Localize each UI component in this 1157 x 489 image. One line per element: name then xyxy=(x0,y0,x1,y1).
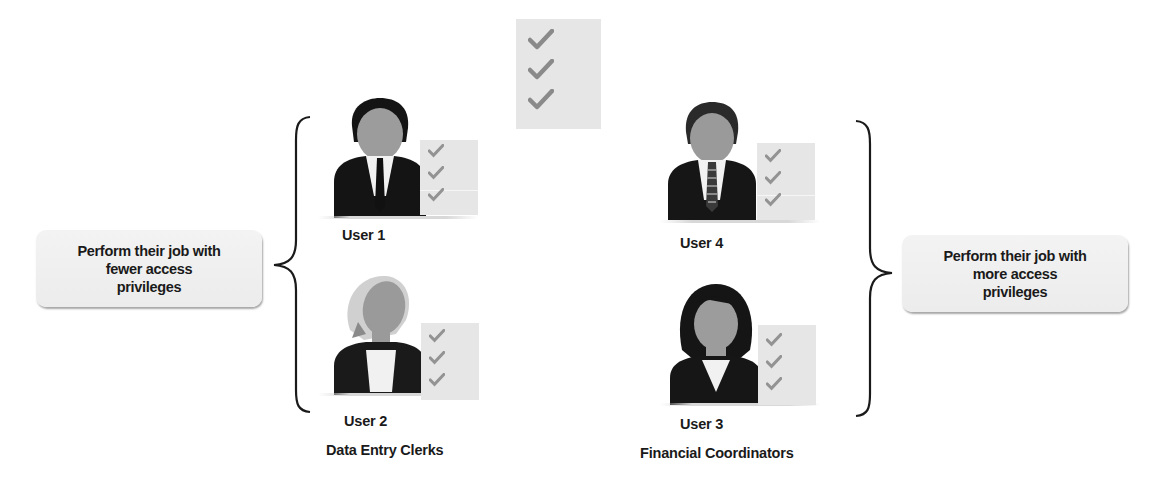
base-shadow xyxy=(318,216,478,219)
user-1-card xyxy=(318,92,483,222)
central-checklist-icon xyxy=(516,19,601,129)
fewer-privileges-callout: Perform their job with fewer access priv… xyxy=(36,230,262,307)
checkmark-icon xyxy=(528,59,554,81)
base-shadow xyxy=(660,220,820,223)
user-3-card xyxy=(660,278,825,408)
right-brace xyxy=(850,116,898,421)
checklist-icon xyxy=(757,143,815,220)
user-2-card xyxy=(318,268,483,398)
callout-line: Perform their job with xyxy=(943,247,1086,265)
user-1-label: User 1 xyxy=(342,227,385,243)
callout-line: more access xyxy=(943,265,1086,283)
user-4-label: User 4 xyxy=(680,235,723,251)
callout-line: privileges xyxy=(77,278,220,296)
checkmark-icon xyxy=(528,89,554,111)
checklist-icon xyxy=(758,325,816,405)
checklist-icon xyxy=(421,323,479,400)
user-4-card xyxy=(660,100,825,225)
callout-line: fewer access xyxy=(77,260,220,278)
female-user-icon xyxy=(330,270,430,395)
callout-line: privileges xyxy=(943,283,1086,301)
user-2-label: User 2 xyxy=(344,413,387,429)
male-user-icon xyxy=(664,100,760,220)
data-entry-clerks-label: Data Entry Clerks xyxy=(326,442,444,458)
user-3-label: User 3 xyxy=(680,416,723,432)
callout-line: Perform their job with xyxy=(77,242,220,260)
left-brace xyxy=(268,112,316,417)
financial-coordinators-label: Financial Coordinators xyxy=(640,445,794,461)
male-user-icon xyxy=(330,96,430,218)
checkmark-icon xyxy=(528,29,554,51)
more-privileges-callout: Perform their job with more access privi… xyxy=(902,235,1128,312)
checklist-icon xyxy=(420,140,478,215)
female-user-icon xyxy=(666,280,766,405)
